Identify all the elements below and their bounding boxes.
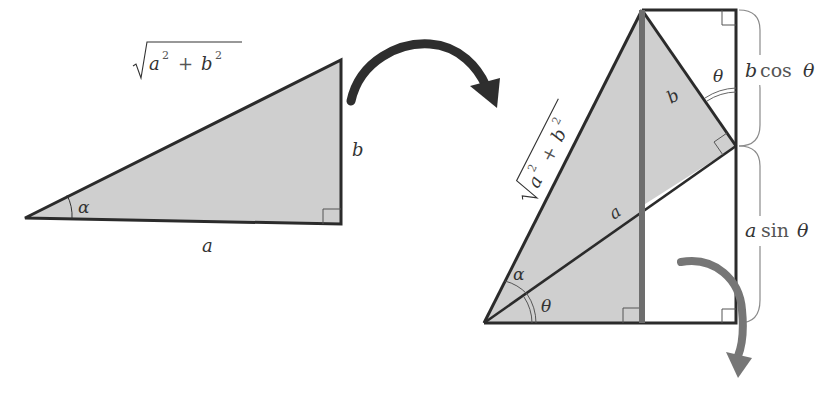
pythagorean-diagram: α b a a 2 + b 2 (0, 0, 830, 395)
right-theta-top-label: θ (713, 66, 723, 86)
right-alpha-label: α (513, 264, 525, 284)
right-hyp-plus: + (536, 142, 562, 165)
curved-arrow-down-icon (681, 261, 752, 378)
left-hyp-a: a (149, 53, 160, 74)
bottom-right-angle-marker (722, 309, 736, 323)
top-right-angle-marker (722, 10, 736, 25)
left-alpha-label: α (78, 197, 90, 217)
left-hyp-b-exp: 2 (215, 49, 222, 62)
left-hypotenuse-label: a 2 + b 2 (133, 42, 242, 78)
bcos-arg: θ (803, 59, 815, 81)
top-theta-arc-outer (705, 88, 736, 98)
left-triangle-shape (25, 60, 341, 224)
right-shaded-b-triangle (642, 10, 736, 206)
left-a-label: a (202, 235, 213, 256)
left-hyp-b: b (201, 53, 213, 74)
curved-arrow-right-icon (351, 44, 500, 108)
asin-func: sin (761, 219, 789, 241)
brace-bottom-label: a sin θ (742, 216, 828, 246)
left-hyp-a-exp: 2 (162, 49, 169, 62)
top-theta-arc-inner (707, 92, 736, 101)
brace-top-label: b cos θ (742, 55, 828, 85)
left-b-label: b (352, 139, 364, 160)
bcos-func: cos (760, 59, 792, 81)
left-hyp-plus: + (178, 53, 193, 74)
right-figure: α θ θ b a a 2 + b 2 b cos θ a sin θ (484, 10, 828, 323)
right-theta-bottom-label: θ (541, 296, 551, 316)
asin-coef: a (745, 219, 756, 241)
bcos-coef: b (745, 59, 757, 81)
left-triangle: α b a a 2 + b 2 (25, 42, 364, 256)
asin-arg: θ (797, 219, 809, 241)
right-hyp-b: b (546, 125, 570, 145)
